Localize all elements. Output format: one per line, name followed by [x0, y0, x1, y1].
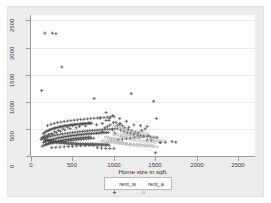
legend-label-rent-a: rent_a — [148, 181, 164, 187]
y-axis-tick-label: 500 — [0, 125, 24, 133]
y-axis-line — [30, 15, 31, 157]
legend-item-rent-w[interactable]: rent_w — [112, 181, 136, 187]
scatter-plot-graph: 0500100015002000250005001000150020002500… — [0, 0, 271, 203]
legend[interactable]: rent_w rent_a — [104, 177, 172, 190]
gridline-y — [31, 129, 255, 130]
x-axis-line — [30, 156, 255, 157]
y-axis-tick-label: 2500 — [0, 16, 24, 24]
gridline-y — [31, 102, 255, 103]
legend-label-rent-w: rent_w — [119, 181, 136, 187]
plus-marker-icon — [112, 181, 117, 186]
y-axis-tick-label: 2000 — [0, 44, 24, 52]
y-axis-tick-label: 1000 — [0, 98, 24, 106]
circle-marker-icon — [141, 181, 146, 186]
legend-item-rent-a[interactable]: rent_a — [141, 181, 164, 187]
gridline-y — [31, 75, 255, 76]
y-axis-tick-label: 1500 — [0, 71, 24, 79]
x-axis-title: Home size in sqft. — [31, 168, 255, 176]
gridline-y — [31, 48, 255, 49]
y-axis-tick-label: 0 — [0, 152, 24, 160]
plot-region — [31, 15, 255, 156]
gridline-y — [31, 20, 255, 21]
